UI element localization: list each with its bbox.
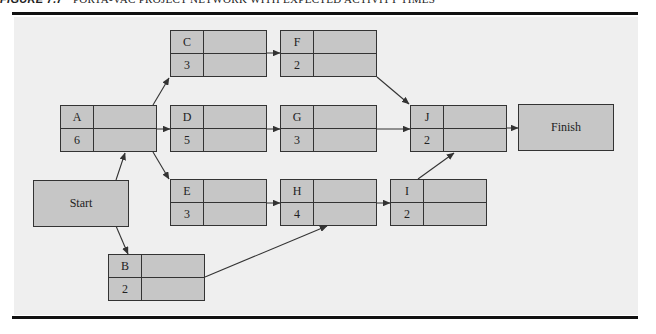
activity-name: F (281, 35, 313, 50)
activity-node-d: D 5 (170, 105, 267, 152)
activity-node-e: E 3 (170, 179, 267, 226)
activity-name: D (171, 110, 203, 125)
activity-time: 3 (281, 133, 313, 148)
edge-f-j (377, 77, 409, 104)
edge-start-b (116, 226, 128, 254)
activity-name: I (391, 184, 423, 199)
edge-start-a (116, 153, 125, 180)
start-node: Start (33, 180, 129, 227)
activity-node-i: I 2 (390, 179, 487, 226)
activity-time: 3 (171, 58, 203, 73)
activity-node-g: G 3 (280, 105, 377, 152)
activity-name: H (281, 184, 313, 199)
edge-a-c (153, 78, 169, 105)
activity-name: C (171, 35, 203, 50)
activity-name: E (171, 184, 203, 199)
activity-name: B (109, 259, 141, 274)
finish-node: Finish (518, 104, 614, 151)
activity-node-b: B 2 (108, 254, 205, 301)
edge-i-j (418, 153, 454, 179)
activity-name: J (411, 110, 443, 125)
finish-label: Finish (551, 120, 581, 135)
activity-node-f: F 2 (280, 30, 377, 77)
bottom-rule (12, 316, 638, 319)
activity-time: 2 (411, 133, 443, 148)
activity-node-a: A 6 (60, 105, 157, 152)
activity-time: 5 (171, 133, 203, 148)
activity-node-c: C 3 (170, 30, 267, 77)
activity-time: 3 (171, 207, 203, 222)
activity-time: 2 (109, 282, 141, 297)
activity-node-h: H 4 (280, 179, 377, 226)
activity-time: 6 (61, 133, 93, 148)
activity-time: 2 (391, 207, 423, 222)
activity-time: 4 (281, 207, 313, 222)
activity-node-j: J 2 (410, 105, 507, 152)
activity-time: 2 (281, 58, 313, 73)
start-label: Start (70, 196, 93, 211)
edge-b-h (205, 226, 327, 277)
activity-name: G (281, 110, 313, 125)
activity-name: A (61, 110, 93, 125)
edge-a-e (153, 152, 169, 179)
